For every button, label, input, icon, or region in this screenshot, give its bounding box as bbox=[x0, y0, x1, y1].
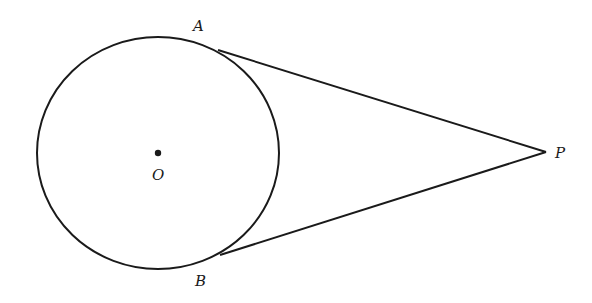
diagram-canvas: A B P O bbox=[0, 0, 592, 303]
center-point-o bbox=[155, 150, 161, 156]
point-label-b: B bbox=[194, 272, 206, 290]
tangent-segment-bp bbox=[220, 152, 546, 255]
point-label-o: O bbox=[152, 166, 164, 184]
point-label-p: P bbox=[554, 144, 566, 162]
tangent-diagram: A B P O bbox=[0, 0, 592, 303]
point-label-a: A bbox=[191, 17, 204, 35]
